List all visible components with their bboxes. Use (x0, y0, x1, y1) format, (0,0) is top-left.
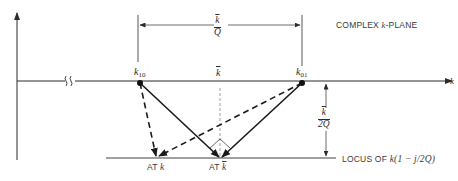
k01-label: k01 (296, 67, 307, 79)
right-dimension-label: k 2Q (318, 108, 330, 130)
axis-break-icon (65, 76, 72, 86)
solid-vectors (140, 83, 302, 157)
at-k-label: AT k (147, 163, 164, 173)
locus-label: LOCUS OF k(1 − j/2Q) (342, 155, 435, 165)
k-axis-label: k (450, 77, 454, 86)
at-kbar-label: AT k (209, 163, 226, 173)
dashed-vectors (140, 83, 302, 156)
k10-label: k10 (134, 67, 145, 79)
k01-point (299, 80, 305, 86)
kbar-label: k (216, 68, 220, 78)
k10-point (137, 80, 143, 86)
diagram-title: COMPLEX k-PLANE (336, 21, 417, 30)
top-dimension-label: k Q (214, 16, 221, 38)
